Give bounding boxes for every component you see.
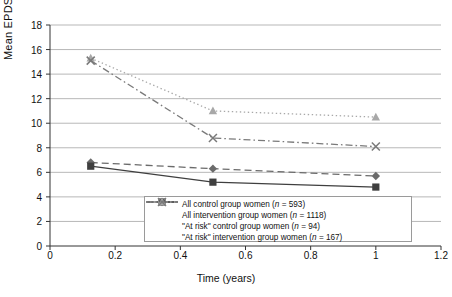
gridlines: [50, 25, 441, 221]
x-axis-label: Time (years): [0, 272, 452, 284]
data-point-diamond: [372, 172, 380, 180]
legend-key-triangle-icon: [148, 222, 182, 232]
legend-key-square-icon: [148, 211, 182, 221]
legend-label: All intervention group women (n = 1118): [182, 211, 326, 221]
legend-item-2[interactable]: "At risk" control group women (n = 94): [148, 222, 408, 233]
legend-label: All control group women (n = 593): [182, 200, 305, 210]
series-2: [87, 54, 381, 121]
series-3: [87, 57, 380, 151]
legend-label: "At risk" control group women (n = 94): [182, 222, 320, 232]
data-point-diamond: [209, 164, 217, 172]
legend-label: "At risk" intervention group women (n = …: [182, 233, 342, 243]
data-point-cross: [372, 143, 380, 151]
legend-key-cross-icon: [148, 233, 182, 243]
data-point-square: [209, 179, 216, 186]
legend: All control group women (n = 593)All int…: [144, 196, 412, 242]
chart-container: Mean EPDS score 024681012141618 00.20.40…: [0, 0, 452, 297]
series-1: [87, 163, 379, 191]
series-0: [87, 158, 381, 180]
legend-item-0[interactable]: All control group women (n = 593): [148, 200, 408, 211]
plot-area: [0, 0, 452, 297]
legend-item-1[interactable]: All intervention group women (n = 1118): [148, 211, 408, 222]
legend-item-3[interactable]: "At risk" intervention group women (n = …: [148, 233, 408, 244]
data-point-square: [372, 183, 379, 190]
data-point-square: [87, 163, 94, 170]
